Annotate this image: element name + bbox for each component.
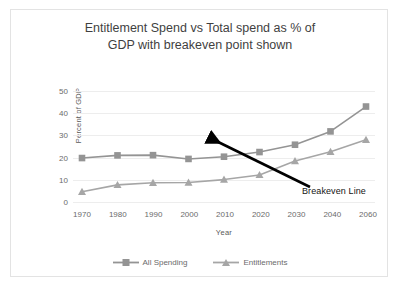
x-axis-tick: 2060: [348, 210, 388, 219]
x-axis-tick: 1980: [98, 210, 138, 219]
chart-title: Entitlement Spend vs Total spend as % of…: [25, 20, 375, 54]
data-point: [327, 128, 334, 135]
gridline: [73, 202, 375, 203]
x-axis-tick: 1990: [134, 210, 174, 219]
x-axis-tick: 2030: [277, 210, 317, 219]
data-point: [150, 152, 157, 159]
x-axis-tick: 2000: [169, 210, 209, 219]
legend-swatch-entitlements: [213, 258, 239, 267]
x-axis-tick: 2010: [205, 210, 245, 219]
x-axis-tick: 1970: [62, 210, 102, 219]
breakeven-annotation-label: Breakeven Line: [302, 186, 366, 196]
y-axis-tick: 30: [42, 131, 68, 140]
y-axis-tick: 0: [42, 198, 68, 207]
chart-title-line-1: Entitlement Spend vs Total spend as % of: [25, 20, 375, 37]
chart-legend: All Spending Entitlements: [11, 258, 389, 267]
data-point: [362, 136, 370, 143]
legend-item-all-spending[interactable]: All Spending: [113, 258, 188, 267]
chart-card: Entitlement Spend vs Total spend as % of…: [10, 9, 388, 277]
y-axis-tick: 20: [42, 153, 68, 162]
data-point: [114, 152, 121, 159]
legend-label-all-spending: All Spending: [143, 258, 188, 267]
legend-label-entitlements: Entitlements: [243, 258, 287, 267]
x-axis-title: Year: [73, 228, 375, 237]
data-point: [185, 156, 192, 163]
data-point: [79, 155, 86, 162]
breakeven-arrow-icon: [206, 134, 316, 192]
x-axis-tick: 2040: [312, 210, 352, 219]
y-axis-tick: 50: [42, 87, 68, 96]
y-axis-tick: 10: [42, 175, 68, 184]
chart-title-line-2: GDP with breakeven point shown: [25, 37, 375, 54]
x-axis-tick: 2020: [241, 210, 281, 219]
legend-item-entitlements[interactable]: Entitlements: [213, 258, 287, 267]
legend-swatch-all-spending: [113, 258, 139, 267]
data-point: [363, 103, 370, 110]
y-axis-tick: 40: [42, 109, 68, 118]
